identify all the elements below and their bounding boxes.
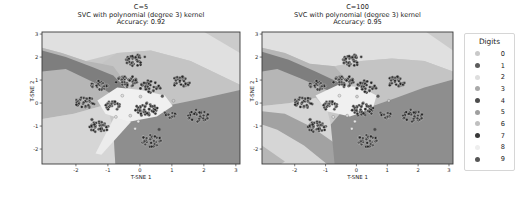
- digit-point-1: [134, 79, 137, 82]
- digit-point-3: [100, 88, 103, 91]
- digit-point-4: [356, 61, 359, 64]
- digit-point-5: [82, 101, 85, 104]
- digit-point-outlier: [373, 128, 376, 131]
- digit-point-outlier: [114, 115, 117, 118]
- digit-point-outlier: [134, 127, 137, 130]
- digit-point-9: [188, 81, 191, 84]
- x-tick-label: 3: [234, 167, 237, 173]
- digit-point-9: [90, 125, 93, 128]
- digit-point-0: [364, 108, 367, 111]
- legend-marker-icon: [475, 133, 480, 138]
- digit-point-4: [125, 61, 128, 64]
- digit-point-8: [331, 100, 334, 103]
- digit-point-5: [310, 102, 313, 105]
- digit-point-outlier: [139, 95, 142, 98]
- digit-point-6: [413, 115, 416, 118]
- digit-point-4: [354, 56, 357, 59]
- digit-point-7: [152, 86, 155, 89]
- digit-point-1: [117, 77, 120, 80]
- digit-point-2: [167, 113, 170, 116]
- digit-point-1: [150, 141, 153, 144]
- digit-point-5: [91, 102, 94, 105]
- digit-point-9: [390, 82, 393, 85]
- digit-point-4: [344, 57, 347, 60]
- digit-point-1: [369, 135, 372, 138]
- legend-marker-icon: [475, 75, 480, 80]
- digit-point-3: [97, 79, 100, 82]
- digit-point-9: [317, 127, 320, 130]
- digit-point-6: [416, 117, 419, 120]
- digit-point-1: [351, 79, 354, 82]
- digit-point-9: [308, 125, 311, 128]
- digit-point-4: [136, 64, 139, 67]
- digit-point-1: [142, 136, 145, 139]
- digit-point-0: [362, 112, 365, 115]
- digit-point-3: [318, 88, 321, 91]
- digit-point-outlier: [172, 99, 175, 102]
- legend-label: 8: [501, 143, 505, 151]
- legend-item-7: 7: [465, 130, 514, 142]
- legend-title: Digits: [465, 37, 514, 46]
- digit-point-1: [365, 134, 368, 137]
- digit-point-5: [299, 105, 302, 108]
- digit-point-3: [315, 79, 318, 82]
- digit-point-5: [303, 105, 306, 108]
- digit-point-0: [352, 105, 355, 108]
- digit-point-outlier: [377, 95, 380, 98]
- y-tick-label: 3: [255, 31, 258, 37]
- legend-label: 2: [501, 73, 505, 81]
- digit-point-1: [143, 140, 146, 143]
- x-tick-label: -2: [73, 167, 78, 173]
- subplot-c5-title: C=5 SVC with polynomial (degree 3) kerne…: [42, 4, 240, 27]
- digit-point-9: [319, 124, 322, 127]
- digit-point-1: [348, 75, 351, 78]
- digit-point-9: [182, 85, 185, 88]
- digit-point-5: [75, 103, 78, 106]
- legend-label: 0: [501, 50, 505, 58]
- digit-point-6: [403, 116, 406, 119]
- digit-point-6: [198, 111, 201, 114]
- digit-point-3: [309, 85, 312, 88]
- digit-point-0: [143, 108, 146, 111]
- digit-point-1: [343, 84, 346, 87]
- digit-point-5: [307, 97, 310, 100]
- digit-point-7: [147, 90, 150, 93]
- legend-marker-icon: [475, 51, 480, 56]
- digit-point-1: [338, 81, 341, 84]
- digit-point-1: [369, 139, 372, 142]
- y-tick-label: 3: [35, 31, 38, 37]
- digit-point-6: [206, 113, 209, 116]
- digit-point-6: [202, 117, 205, 120]
- legend-item-6: 6: [465, 118, 514, 130]
- digit-point-6: [405, 111, 408, 114]
- digit-point-2: [386, 112, 389, 115]
- y-tick-label: -2: [253, 146, 258, 152]
- digit-point-7: [363, 90, 366, 93]
- x-tick-label: 1: [170, 167, 173, 173]
- digit-point-4: [348, 64, 351, 67]
- x-tick-label: 3: [447, 167, 450, 173]
- legend-rows: 0123456789: [465, 48, 514, 165]
- digit-point-7: [368, 86, 371, 89]
- digit-point-8: [105, 106, 108, 109]
- legend-label: 9: [501, 155, 505, 163]
- digit-point-2: [171, 112, 174, 115]
- x-tick-label: -2: [292, 167, 297, 173]
- digit-point-1: [358, 136, 361, 139]
- digit-point-outlier: [350, 127, 353, 130]
- digit-point-9: [403, 81, 406, 84]
- digit-point-6: [196, 120, 199, 123]
- digit-point-1: [361, 137, 364, 140]
- digit-point-5: [85, 97, 88, 100]
- digit-point-0: [360, 105, 363, 108]
- digit-point-4: [353, 64, 356, 67]
- digit-point-1: [121, 81, 124, 84]
- digit-point-0: [145, 102, 148, 105]
- digit-point-9: [98, 120, 101, 123]
- digit-point-0: [356, 106, 359, 109]
- x-tick-label: 2: [416, 167, 419, 173]
- digit-point-6: [416, 114, 419, 117]
- legend-marker-icon: [475, 98, 480, 103]
- digit-point-7: [359, 81, 362, 84]
- digit-point-4: [139, 61, 142, 64]
